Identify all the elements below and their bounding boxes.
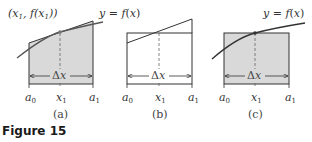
svg-text:a1: a1 (285, 91, 296, 105)
panel-a: Δx (x1, f(x1)) a0 x1 a1 (a) (8, 7, 103, 121)
svg-text:x1: x1 (251, 91, 262, 105)
tangent-line (127, 19, 192, 43)
svg-text:a0: a0 (122, 91, 133, 105)
figure-label: Figure 15 (2, 124, 66, 138)
svg-text:a0: a0 (25, 91, 36, 105)
svg-text:Δx: Δx (52, 69, 67, 82)
figure-15-diagram: Δx (x1, f(x1)) a0 x1 a1 (a) Δx y = f(x) … (0, 0, 312, 142)
svg-text:(x1, f(x1)): (x1, f(x1)) (8, 7, 58, 21)
svg-text:x1: x1 (56, 91, 67, 105)
svg-text:(a): (a) (53, 108, 68, 121)
svg-text:a0: a0 (219, 91, 230, 105)
svg-text:Δx: Δx (247, 69, 262, 82)
svg-text:Δx: Δx (151, 69, 166, 82)
svg-text:(b): (b) (152, 108, 168, 121)
svg-text:y = f(x): y = f(x) (98, 7, 140, 20)
svg-text:(c): (c) (248, 108, 263, 121)
svg-text:x1: x1 (155, 91, 166, 105)
panel-c: Δx y = f(x) a0 x1 a1 (c) (212, 7, 305, 121)
panel-b: Δx y = f(x) a0 x1 a1 (b) (98, 7, 199, 121)
svg-text:y = f(x): y = f(x) (262, 7, 304, 20)
midpoint-dot (58, 30, 62, 34)
svg-text:a1: a1 (89, 91, 100, 105)
svg-text:a1: a1 (188, 91, 199, 105)
